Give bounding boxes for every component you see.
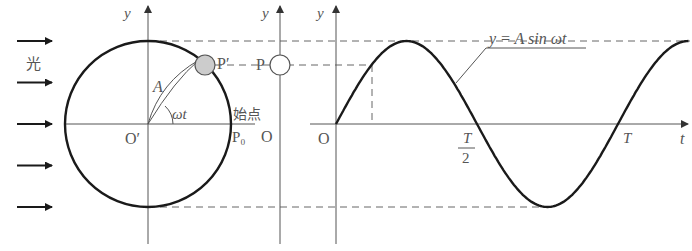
circle-y-label: y [122, 5, 131, 21]
projection-point-label: P [256, 56, 265, 73]
shm-diagram: 光 y A ωt P′ 始点 P₀ O′ y P O y t O T 2 T y… [0, 0, 692, 251]
light-label: 光 [26, 55, 41, 73]
graph-y-label: y [315, 5, 324, 21]
half-period-denominator: 2 [462, 150, 470, 166]
moving-point-ball [195, 55, 215, 75]
graph-origin-label: O [318, 130, 330, 147]
projection-point [270, 55, 290, 75]
start-point-label: P₀ [232, 129, 246, 145]
angle-label: ωt [172, 106, 188, 122]
radius-label: A [152, 78, 163, 95]
graph-t-label: t [680, 130, 685, 147]
half-period-numerator: T [463, 130, 473, 146]
projection-origin-label: O [261, 128, 273, 145]
projection-y-label: y [260, 5, 269, 21]
start-point-text: 始点 [233, 106, 261, 122]
equation-label: y = A sin ωt [487, 30, 567, 48]
moving-point-label: P′ [217, 55, 229, 72]
equation-leader-line [456, 48, 586, 83]
period-label: T [623, 130, 633, 146]
circle-center-label: O′ [125, 130, 140, 147]
